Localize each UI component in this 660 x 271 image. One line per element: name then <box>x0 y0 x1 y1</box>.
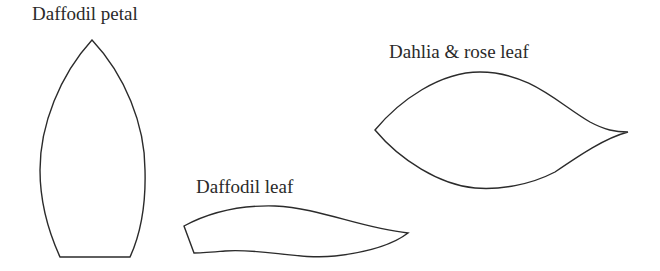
daffodil-petal-shape <box>40 40 145 257</box>
dahlia-rose-leaf-shape <box>375 72 628 188</box>
daffodil-leaf-shape <box>184 206 408 257</box>
template-shapes <box>0 0 660 271</box>
